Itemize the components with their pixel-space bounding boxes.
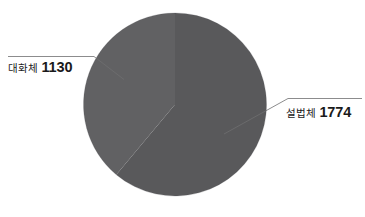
pie-label-daehwache-name: 대화체 [8, 62, 37, 74]
pie-label-daehwache-value: 1130 [41, 59, 72, 75]
pie-label-seolbeopche-value: 1774 [319, 104, 351, 120]
pie-label-seolbeopche: 설법체1774 [286, 104, 351, 120]
pie-label-daehwache: 대화체1130 [8, 59, 72, 75]
pie-chart-figure: 대화체1130 설법체1774 [0, 0, 365, 217]
pie-label-seolbeopche-name: 설법체 [286, 107, 315, 119]
